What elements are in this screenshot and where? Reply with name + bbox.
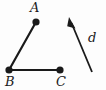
vector-label-d: d bbox=[88, 31, 96, 44]
segment-BA bbox=[9, 22, 36, 70]
geometry-figure: A B C d bbox=[0, 0, 106, 90]
vector-d-arrowhead-icon bbox=[67, 17, 75, 29]
vertex-dot-c bbox=[56, 66, 63, 73]
segments-group bbox=[9, 22, 60, 70]
point-label-b: B bbox=[5, 75, 15, 88]
point-label-c: C bbox=[56, 75, 66, 88]
figure-canvas bbox=[0, 0, 106, 90]
vertex-dot-a bbox=[32, 18, 39, 25]
vertex-dot-b bbox=[5, 66, 12, 73]
point-label-a: A bbox=[30, 1, 39, 14]
